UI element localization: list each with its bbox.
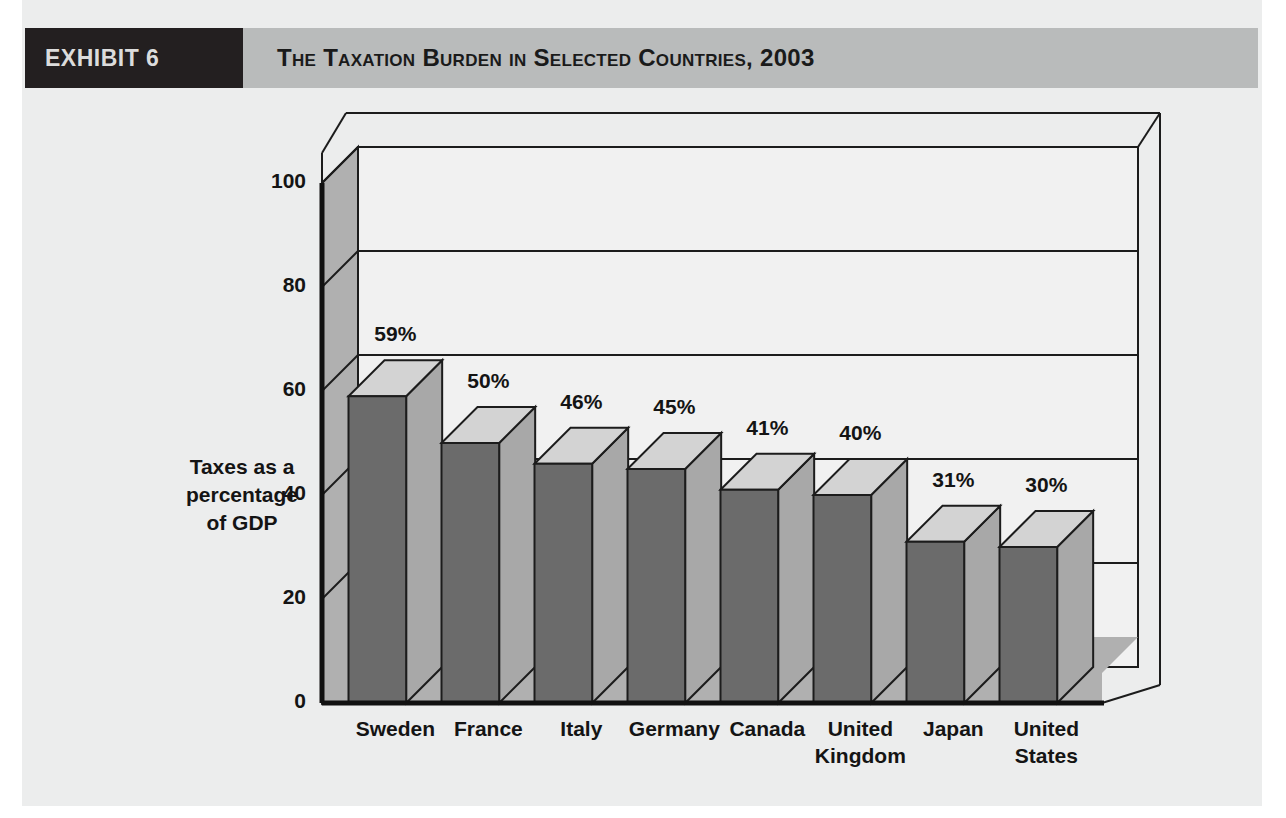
bar-side-face — [406, 360, 442, 703]
y-tick-label: 60 — [236, 377, 306, 401]
bar-side-face — [778, 454, 814, 703]
bar-value-label: 50% — [438, 369, 538, 393]
bar-side-face — [592, 428, 628, 703]
y-tick-label: 20 — [236, 585, 306, 609]
bar-value-label: 31% — [903, 468, 1003, 492]
bar-chart-3d — [22, 88, 1262, 806]
y-tick-label: 0 — [236, 689, 306, 713]
x-category-label: UnitedStates — [976, 715, 1116, 769]
exhibit-page: EXHIBIT 6 The Taxation Burden in Selecte… — [0, 0, 1286, 818]
bar-front-face — [1000, 547, 1058, 703]
bar-value-label: 46% — [531, 390, 631, 414]
y-axis-title-line: of GDP — [147, 509, 337, 537]
x-category-label-line: United — [976, 715, 1116, 742]
bar-side-face — [871, 459, 907, 703]
chart-area: Taxes as apercentageof GDP Country 02040… — [22, 88, 1262, 806]
bar-value-label: 59% — [345, 322, 445, 346]
y-tick-label: 40 — [236, 481, 306, 505]
exhibit-title: The Taxation Burden in Selected Countrie… — [277, 28, 815, 88]
frame-edge-top-left — [322, 113, 346, 153]
bar-front-face — [535, 464, 593, 703]
y-tick-label: 100 — [236, 169, 306, 193]
bar-value-label: 45% — [624, 395, 724, 419]
bar-front-face — [814, 495, 872, 703]
x-category-label-line: States — [976, 742, 1116, 769]
y-axis-title-line: Taxes as a — [147, 453, 337, 481]
y-tick-label: 80 — [236, 273, 306, 297]
bar-front-face — [442, 443, 500, 703]
bar-value-label: 30% — [996, 473, 1096, 497]
bar-front-face — [721, 490, 779, 703]
bar-front-face — [349, 396, 407, 703]
bar-side-face — [685, 433, 721, 703]
bar-value-label: 40% — [810, 421, 910, 445]
exhibit-tag: EXHIBIT 6 — [25, 28, 243, 88]
bar-value-label: 41% — [717, 416, 817, 440]
x-category-label-line: Kingdom — [790, 742, 930, 769]
bar-front-face — [628, 469, 686, 703]
bar-front-face — [907, 542, 965, 703]
frame-edge-right-diag-top — [1138, 113, 1160, 147]
exhibit-tag-label: EXHIBIT 6 — [25, 45, 159, 72]
frame-edge-right-diag-bottom — [1102, 685, 1160, 703]
bar-side-face — [499, 407, 535, 703]
